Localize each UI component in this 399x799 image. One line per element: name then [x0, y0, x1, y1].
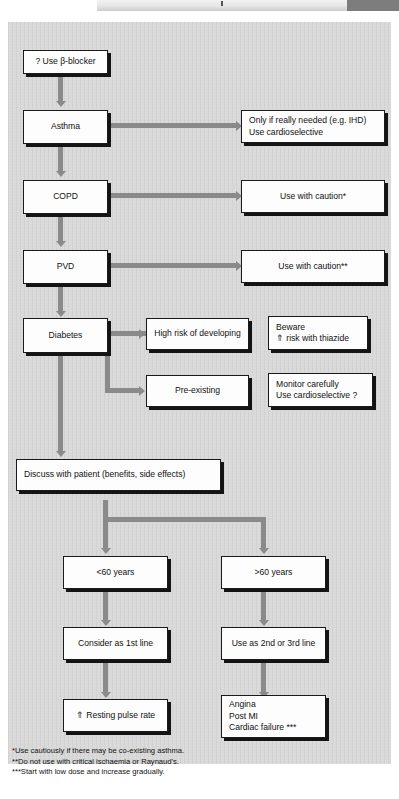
node-first-line[interactable]: Consider as 1st line — [63, 627, 168, 660]
node-pre-existing-note[interactable]: Monitor carefully Use cardioselective ? — [268, 373, 373, 407]
node-asthma-action-line1: Only if really needed (e.g. IHD) — [249, 115, 384, 126]
node-indications-line3: Cardiac failure *** — [229, 722, 325, 733]
connector-asthma-copd — [58, 143, 63, 173]
node-start-label: ? Use β-blocker — [24, 56, 107, 67]
node-copd[interactable]: COPD — [23, 180, 108, 214]
node-pvd-action-label: Use with caution** — [242, 261, 384, 272]
node-copd-label: COPD — [24, 191, 107, 202]
node-pre-existing-note-line2: Use cardioselective ? — [276, 390, 372, 401]
arrowhead-diabetes-preexisting — [139, 386, 145, 396]
node-high-risk-label: High risk of developing — [147, 328, 248, 339]
node-indications[interactable]: Angina Post MI Cardiac failure *** — [221, 695, 326, 738]
node-pvd-label: PVD — [24, 261, 107, 272]
node-asthma-label: Asthma — [24, 121, 107, 132]
flowchart-page: ? Use β-blocker Asthma Only if really ne… — [0, 0, 399, 799]
connector-split-right — [261, 517, 266, 550]
node-copd-action[interactable]: Use with caution* — [241, 180, 385, 213]
connector-diabetes-highrisk — [108, 331, 142, 336]
node-diabetes-label: Diabetes — [24, 330, 107, 341]
connector-pvd-action — [108, 263, 238, 268]
node-pulse[interactable]: ⇑ Resting pulse rate — [63, 699, 168, 732]
arrowhead-diabetes-discuss — [56, 451, 66, 457]
node-discuss[interactable]: Discuss with patient (benefits, side eff… — [16, 459, 221, 491]
node-pvd-action[interactable]: Use with caution** — [241, 250, 385, 283]
node-second-line[interactable]: Use as 2nd or 3rd line — [221, 627, 326, 660]
node-pre-existing[interactable]: Pre-existing — [146, 375, 249, 407]
footnote-three: ***Start with low dose and increase grad… — [12, 767, 312, 778]
connector-split-left — [103, 517, 108, 550]
arrowhead-over60-secondline — [259, 620, 269, 626]
connector-asthma-action — [108, 123, 238, 128]
node-over60-label: >60 years — [222, 567, 325, 578]
arrowhead-firstline-pulse — [101, 692, 111, 698]
arrowhead-start-asthma — [56, 101, 66, 107]
node-under60[interactable]: <60 years — [63, 556, 168, 589]
node-discuss-label: Discuss with patient (benefits, side eff… — [24, 469, 220, 480]
arrowhead-copd-pvd — [56, 241, 66, 247]
footnote-one: *Use cautiously if there may be co-exist… — [12, 746, 312, 757]
arrowhead-diabetes-highrisk — [139, 329, 145, 339]
node-pulse-label: ⇑ Resting pulse rate — [64, 710, 167, 721]
node-pvd[interactable]: PVD — [23, 250, 108, 284]
node-high-risk-note-line1: Beware — [276, 322, 367, 333]
connector-firstline-pulse — [103, 660, 108, 694]
connector-diabetes-preexisting — [105, 388, 142, 393]
connector-diabetes-discuss — [58, 353, 63, 453]
node-pre-existing-label: Pre-existing — [147, 385, 248, 396]
node-high-risk-note[interactable]: Beware ⇑ risk with thiazide — [268, 316, 368, 350]
node-first-line-label: Consider as 1st line — [64, 638, 167, 649]
arrowhead-split-right — [259, 548, 269, 554]
node-start[interactable]: ? Use β-blocker — [23, 50, 108, 74]
connector-under60-firstline — [103, 590, 108, 622]
node-high-risk-note-line2: ⇑ risk with thiazide — [276, 333, 367, 344]
footnotes: *Use cautiously if there may be co-exist… — [12, 746, 312, 778]
node-under60-label: <60 years — [64, 567, 167, 578]
node-copd-action-label: Use with caution* — [242, 191, 384, 202]
header-accent-block — [347, 0, 399, 11]
node-indications-line1: Angina — [229, 699, 325, 710]
node-pre-existing-note-line1: Monitor carefully — [276, 379, 372, 390]
footnote-two: **Do not use with critical ischaemia or … — [12, 757, 312, 768]
connector-copd-pvd — [58, 213, 63, 243]
caret-icon — [221, 1, 223, 6]
connector-over60-secondline — [261, 590, 266, 622]
arrowhead-asthma-copd — [56, 171, 66, 177]
connector-pvd-diabetes — [58, 283, 63, 313]
arrowhead-split-left — [101, 548, 111, 554]
node-diabetes[interactable]: Diabetes — [23, 318, 108, 353]
flowchart-panel: ? Use β-blocker Asthma Only if really ne… — [8, 22, 391, 764]
connector-discuss-split-bar — [103, 517, 266, 522]
node-second-line-label: Use as 2nd or 3rd line — [222, 638, 325, 649]
node-asthma[interactable]: Asthma — [23, 110, 108, 144]
connector-secondline-indications — [261, 660, 266, 694]
connector-copd-action — [108, 193, 238, 198]
node-indications-line2: Post MI — [229, 711, 325, 722]
arrowhead-pvd-diabetes — [56, 311, 66, 317]
node-asthma-action[interactable]: Only if really needed (e.g. IHD) Use car… — [241, 110, 385, 143]
arrowhead-under60-firstline — [101, 620, 111, 626]
node-high-risk[interactable]: High risk of developing — [146, 318, 249, 350]
node-asthma-action-line2: Use cardioselective — [249, 127, 384, 138]
connector-start-asthma — [58, 73, 63, 103]
node-over60[interactable]: >60 years — [221, 556, 326, 589]
